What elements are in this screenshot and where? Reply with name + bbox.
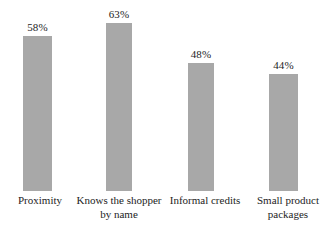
bar-group: 58%: [23, 0, 52, 191]
x-axis-label-small-product-packages: Small product packages: [249, 194, 327, 221]
bar-rect[interactable]: [23, 36, 52, 191]
x-axis-label-knows-the-shopper-by-name: Knows the shopper by name: [75, 194, 163, 221]
bar-value-label: 44%: [273, 59, 293, 71]
bar-group: 63%: [106, 0, 132, 191]
plot-area: 58% 63% 48% 44%: [0, 0, 327, 191]
bar-rect[interactable]: [188, 63, 214, 191]
x-axis-labels: Proximity Knows the shopper by name Info…: [0, 191, 327, 234]
bar-rect[interactable]: [106, 23, 132, 191]
bar-group: 48%: [188, 0, 214, 191]
bar-value-label: 48%: [191, 48, 211, 60]
bar-value-label: 63%: [109, 8, 129, 20]
bar-group: 44%: [269, 0, 298, 191]
bar-chart: 58% 63% 48% 44% Proximity Knows the shop…: [0, 0, 327, 234]
x-axis-label-informal-credits: Informal credits: [162, 194, 248, 208]
bar-value-label: 58%: [27, 21, 47, 33]
x-axis-label-proximity: Proximity: [0, 194, 80, 208]
bar-rect[interactable]: [269, 74, 298, 191]
